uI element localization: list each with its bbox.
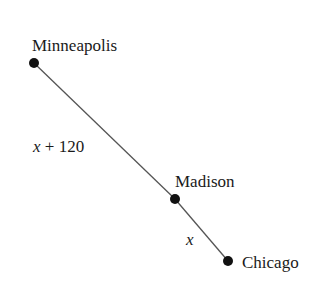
node-dot-minneapolis — [29, 58, 39, 68]
distance-diagram: Minneapolis Madison Chicago x + 120 x — [0, 0, 327, 286]
edge-madison-chicago — [175, 199, 228, 261]
label-madison: Madison — [175, 172, 235, 191]
node-dot-madison — [170, 194, 180, 204]
label-edge-madison-chicago: x — [185, 230, 194, 249]
label-minneapolis: Minneapolis — [32, 36, 117, 55]
label-edge-minneapolis-madison: x + 120 — [32, 137, 84, 156]
edge-minneapolis-madison — [34, 63, 175, 199]
label-chicago: Chicago — [242, 253, 299, 272]
node-dot-chicago — [223, 256, 233, 266]
